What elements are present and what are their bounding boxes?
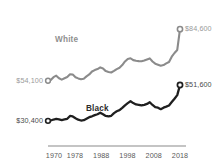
series-label-white: White: [55, 36, 78, 44]
series-black-end-marker: [177, 82, 182, 87]
x-tick-label: 2008: [146, 151, 162, 160]
black-start-value-label: $30,400: [16, 117, 43, 124]
series-black-group: [46, 82, 183, 123]
x-tick-label: 1988: [93, 151, 109, 160]
white-end-value-label: $84,600: [185, 25, 212, 32]
series-label-black: Black: [86, 105, 109, 113]
series-black-start-marker: [46, 118, 51, 123]
white-start-value-label: $54,100: [16, 77, 43, 84]
income-line-chart: $54,100 $84,600 $30,400 $51,600 White Bl…: [0, 0, 224, 163]
x-tick-label: 1970: [46, 151, 62, 160]
series-white-start-marker: [46, 78, 51, 83]
series-white-end-marker: [177, 27, 182, 32]
x-tick-label: 1978: [67, 151, 83, 160]
series-line-black: [48, 85, 180, 121]
x-tick-label: 1998: [119, 151, 135, 160]
x-tick-label: 2018: [172, 151, 188, 160]
black-end-value-label: $51,600: [185, 81, 212, 88]
